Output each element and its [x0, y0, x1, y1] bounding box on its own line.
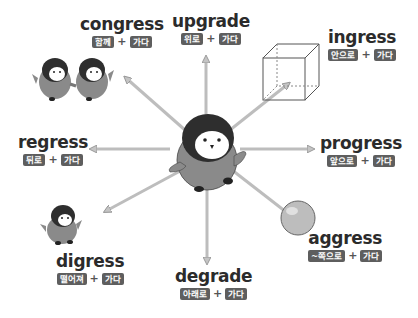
arrow-down-left [106, 170, 182, 211]
cube-icon [263, 44, 319, 100]
plus-sign: + [348, 250, 357, 262]
term-regress: regress 뒤로 + 가다 [18, 132, 88, 166]
term-word: congress [80, 14, 164, 34]
root-badge: 가다 [374, 49, 396, 61]
two-penguins-icon [32, 58, 114, 101]
term-ingress: ingress 안으로 + 가다 [328, 27, 396, 61]
plus-sign: + [213, 288, 222, 300]
term-parts: 함께 + 가다 [80, 36, 164, 48]
term-digress: digress 떨어져 + 가다 [56, 251, 124, 285]
root-badge: 가다 [360, 250, 382, 262]
term-parts: 안으로 + 가다 [328, 49, 396, 61]
word-root-diagram: congress 함께 + 가다 upgrade 위로 + 가다 ingress… [0, 0, 418, 318]
term-congress: congress 함께 + 가다 [80, 14, 164, 48]
arrow-down-right [232, 170, 290, 215]
prefix-badge: 함께 [92, 36, 114, 48]
term-word: degrade [175, 266, 252, 286]
term-word: ingress [328, 27, 396, 47]
term-word: regress [18, 132, 88, 152]
root-badge: 가다 [130, 36, 152, 48]
plus-sign: + [361, 49, 370, 61]
root-badge: 가다 [219, 33, 241, 45]
root-badge: 가다 [225, 288, 247, 300]
plus-sign: + [360, 155, 369, 167]
term-parts: 앞으로 + 가다 [320, 155, 402, 167]
term-word: upgrade [172, 11, 250, 31]
term-progress: progress 앞으로 + 가다 [320, 133, 402, 167]
prefix-badge: 뒤로 [23, 154, 45, 166]
prefix-badge: 위로 [181, 33, 203, 45]
term-word: aggress [308, 228, 382, 248]
prefix-badge: 안으로 [328, 49, 358, 61]
term-parts: 떨어져 + 가다 [56, 273, 124, 285]
term-word: progress [320, 133, 402, 153]
term-degrade: degrade 아래로 + 가다 [175, 266, 252, 300]
root-badge: 가다 [373, 155, 395, 167]
term-parts: ~쪽으로 + 가다 [308, 250, 382, 262]
arrow-up-right [230, 84, 288, 130]
prefix-badge: ~쪽으로 [308, 250, 345, 262]
term-aggress: aggress ~쪽으로 + 가다 [308, 228, 382, 262]
arrow-up-left [126, 78, 185, 130]
small-penguin-icon [40, 205, 82, 245]
term-parts: 위로 + 가다 [172, 33, 250, 45]
root-badge: 가다 [61, 154, 83, 166]
prefix-badge: 떨어져 [57, 273, 87, 285]
term-upgrade: upgrade 위로 + 가다 [172, 11, 250, 45]
prefix-badge: 앞으로 [327, 155, 357, 167]
plus-sign: + [90, 273, 99, 285]
prefix-badge: 아래로 [180, 288, 210, 300]
plus-sign: + [117, 36, 126, 48]
plus-sign: + [206, 33, 215, 45]
plus-sign: + [48, 154, 57, 166]
term-parts: 아래로 + 가다 [175, 288, 252, 300]
term-parts: 뒤로 + 가다 [18, 154, 88, 166]
term-word: digress [56, 251, 124, 271]
root-badge: 가다 [102, 273, 124, 285]
